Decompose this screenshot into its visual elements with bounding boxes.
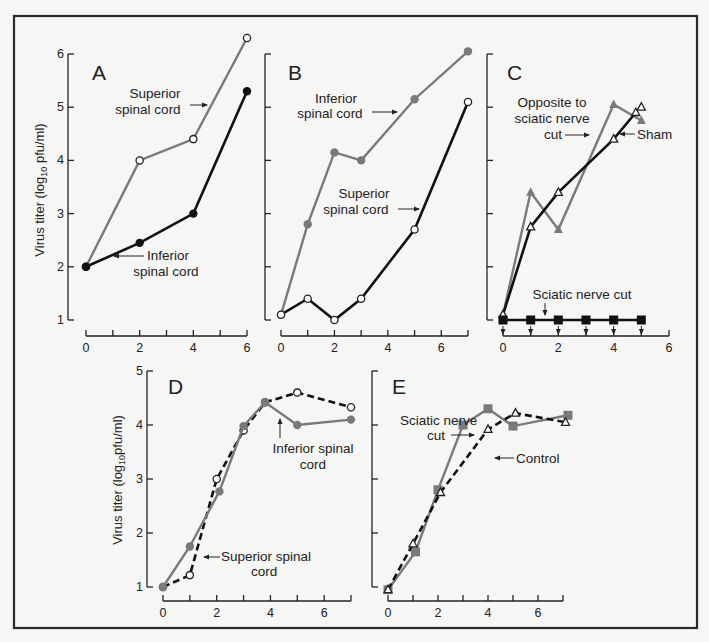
open-circle-marker: [213, 475, 220, 482]
x-tick-label: 2: [213, 606, 220, 620]
x-tick-label: 4: [610, 341, 617, 355]
y-tick-label: 4: [57, 153, 64, 167]
y-tick-label: 5: [57, 100, 64, 114]
series-superior-spinal-cord: [82, 34, 250, 270]
open-circle-marker: [331, 316, 338, 323]
x-tick-label: 4: [267, 606, 274, 620]
x-tick-label: 2: [331, 341, 338, 355]
open-circle-marker: [304, 295, 311, 302]
annotation-b-superior-2: spinal cord: [323, 202, 388, 217]
annotation-b-inferior: Inferior: [315, 91, 358, 106]
filled-circle-marker: [215, 487, 223, 495]
series-control: [384, 409, 570, 593]
y-tick-label: 1: [136, 580, 143, 594]
series-opposite-to-sciatic-nerve-cut: [499, 100, 646, 319]
filled-square-marker: [582, 316, 591, 325]
x-tick-label: 4: [384, 341, 391, 355]
filled-square-marker: [499, 316, 508, 325]
annotation-a-inferior-2: spinal cord: [133, 264, 198, 279]
filled-square-marker: [411, 547, 420, 556]
filled-square-marker: [484, 404, 493, 413]
panel-letter-a: A: [92, 61, 106, 84]
filled-circle-marker: [239, 422, 247, 430]
x-tick-label: 4: [190, 341, 197, 355]
x-tick-label: 0: [160, 606, 167, 620]
filled-square-marker: [509, 422, 518, 431]
y-axis-label-bottom: Virus titer (log10pfu/ml): [110, 415, 127, 545]
annotation-a-inferior: Inferior: [147, 248, 190, 263]
panel-e: 0246: [372, 371, 573, 620]
y-tick-label: 3: [57, 207, 64, 221]
x-tick-label: 0: [278, 341, 285, 355]
panel-letter-d: D: [168, 375, 183, 398]
x-tick-label: 6: [666, 341, 673, 355]
x-tick-label: 6: [535, 606, 542, 620]
panel-letter-b: B: [288, 61, 302, 84]
filled-circle-marker: [82, 263, 90, 271]
series-sciatic-nerve-cut: [384, 404, 573, 594]
filled-circle-marker: [293, 421, 301, 429]
y-axis-label-top: Virus titer (log10 pfu/ml): [32, 123, 49, 256]
y-tick-label: 5: [136, 364, 143, 378]
filled-circle-marker: [261, 398, 269, 406]
x-tick-label: 4: [485, 606, 492, 620]
annotation-d-superior: Superior spinal: [221, 549, 311, 564]
open-circle-marker: [186, 572, 193, 579]
y-tick-label: 4: [136, 418, 143, 432]
filled-circle-marker: [159, 583, 167, 591]
filled-square-marker: [526, 316, 535, 325]
annotation-e-sciatic-cut-2: cut: [427, 428, 445, 443]
annotation-c-opposite: Opposite to: [517, 95, 586, 110]
filled-circle-marker: [189, 209, 197, 217]
filled-circle-marker: [135, 239, 143, 247]
x-tick-label: 0: [500, 341, 507, 355]
annotation-b-superior: Superior: [338, 186, 390, 201]
annotation-c-opposite-2: sciatic nerve: [514, 111, 589, 126]
filled-square-marker: [609, 316, 618, 325]
filled-circle-marker: [330, 148, 338, 156]
filled-circle-marker: [243, 87, 251, 95]
annotation-c-sham: Sham: [637, 127, 672, 142]
annotation-d-inferior-2: cord: [300, 457, 326, 472]
open-circle-marker: [277, 311, 284, 318]
filled-square-marker: [637, 316, 646, 325]
annotation-a-superior-2: spinal cord: [115, 102, 180, 117]
open-circle-marker: [190, 136, 197, 143]
panel-a: 1234560246: [57, 34, 251, 355]
open-circle-marker: [243, 34, 250, 41]
filled-circle-marker: [186, 542, 194, 550]
annotation-e-sciatic-cut: Sciatic nerve: [400, 413, 477, 428]
open-circle-marker: [464, 98, 471, 105]
filled-circle-marker: [304, 220, 312, 228]
annotation-d-superior-2: cord: [251, 564, 277, 579]
filled-circle-marker: [464, 47, 472, 55]
series-sciatic-nerve-cut: [499, 316, 646, 335]
open-circle-marker: [358, 295, 365, 302]
filled-circle-marker: [410, 95, 418, 103]
panel-letter-c: C: [507, 61, 522, 84]
open-triangle-marker: [637, 103, 645, 111]
y-tick-label: 1: [57, 313, 64, 327]
y-tick-label: 3: [136, 472, 143, 486]
figure: Virus titer (log10 pfu/ml) Virus titer (…: [0, 0, 709, 642]
annotation-c-sciatic-cut: Sciatic nerve cut: [532, 287, 631, 302]
panel-d: 123450246: [136, 364, 355, 620]
x-tick-label: 6: [244, 341, 251, 355]
open-circle-marker: [136, 157, 143, 164]
y-tick-label: 2: [136, 526, 143, 540]
panel-letter-e: E: [392, 375, 406, 398]
x-tick-label: 0: [83, 341, 90, 355]
filled-circle-marker: [357, 156, 365, 164]
filled-circle-marker: [347, 415, 355, 423]
x-tick-label: 6: [321, 606, 328, 620]
annotation-c-opposite-3: cut: [544, 127, 562, 142]
y-tick-label: 6: [57, 47, 64, 61]
x-tick-label: 2: [435, 606, 442, 620]
open-circle-marker: [294, 389, 301, 396]
annotation-d-inferior: Inferior spinal: [272, 441, 353, 456]
open-circle-marker: [411, 226, 418, 233]
annotation-b-inferior-2: spinal cord: [297, 106, 362, 121]
filled-square-marker: [554, 316, 563, 325]
annotation-a-superior: Superior: [129, 86, 181, 101]
x-tick-label: 2: [136, 341, 143, 355]
